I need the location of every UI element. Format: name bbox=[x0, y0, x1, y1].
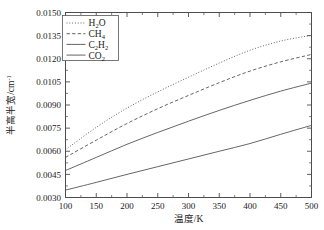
series-curve-CH4 bbox=[66, 54, 312, 157]
x-tick-label: 250 bbox=[151, 201, 165, 211]
series-curve-C2H2 bbox=[66, 83, 312, 170]
y-axis-title: 半高半宽/cm-1 bbox=[5, 75, 17, 135]
chart-figure: 1001502002503003504004505000.00300.00450… bbox=[0, 0, 324, 230]
y-tick-label: 0.0120 bbox=[36, 54, 61, 64]
line-chart: 1001502002503003504004505000.00300.00450… bbox=[0, 0, 324, 230]
y-tick-label: 0.0090 bbox=[36, 100, 61, 110]
y-tick-label: 0.0045 bbox=[36, 170, 61, 180]
y-tick-label: 0.0105 bbox=[36, 77, 61, 87]
x-tick-label: 200 bbox=[120, 201, 134, 211]
y-tick-label: 0.0075 bbox=[36, 123, 61, 133]
x-tick-label: 300 bbox=[182, 201, 196, 211]
x-tick-label: 400 bbox=[243, 201, 257, 211]
y-tick-label: 0.0135 bbox=[36, 31, 61, 41]
x-tick-label: 450 bbox=[274, 201, 288, 211]
x-tick-label: 500 bbox=[305, 201, 319, 211]
x-tick-label: 350 bbox=[213, 201, 227, 211]
series-curve-CO2 bbox=[66, 125, 312, 190]
y-tick-label: 0.0150 bbox=[36, 8, 61, 18]
x-axis-title: 温度/K bbox=[174, 213, 204, 224]
x-tick-label: 150 bbox=[90, 201, 104, 211]
y-tick-label: 0.0060 bbox=[36, 146, 61, 156]
y-tick-label: 0.0030 bbox=[36, 193, 61, 203]
